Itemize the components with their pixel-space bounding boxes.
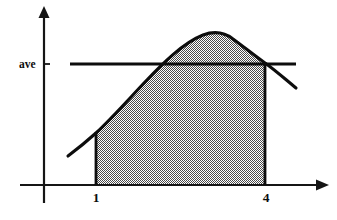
ave-axis-label: ave — [19, 58, 36, 70]
x-tick-label-4: 4 — [263, 190, 270, 205]
x-axis-arrow-icon — [316, 180, 329, 191]
figure-canvas: ave 1 4 — [0, 0, 337, 220]
average-value-figure: ave 1 4 — [0, 0, 337, 220]
scan-speck — [170, 90, 172, 92]
x-tick-label-1: 1 — [93, 190, 100, 205]
y-axis-arrow-icon — [39, 6, 50, 18]
